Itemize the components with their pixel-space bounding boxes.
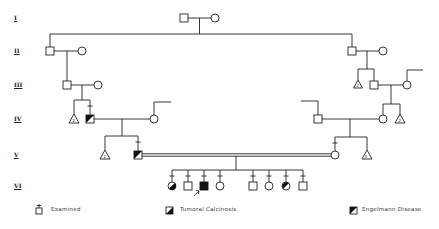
gen-i [50, 14, 352, 47]
male-symbol [249, 182, 257, 190]
female-symbol [94, 81, 102, 89]
female-symbol [78, 47, 86, 55]
female-symbol [331, 151, 339, 159]
engelmann-disease-male [134, 151, 142, 159]
male-symbol [314, 115, 322, 123]
male-symbol [180, 14, 188, 22]
gen-vi [168, 170, 307, 196]
legend-examined-label: Examined [51, 206, 81, 212]
male-symbol [184, 182, 192, 190]
svg-text:2: 2 [357, 83, 360, 88]
female-symbol [150, 115, 158, 123]
examined-legend-icon [36, 208, 42, 214]
male-symbol [46, 47, 54, 55]
legend-tumoral-calcinosis-label: Tumoral Calcinosis [180, 206, 236, 212]
female-symbol [211, 14, 219, 22]
male-symbol [348, 47, 356, 55]
male-symbol [370, 81, 378, 89]
legend-engelmann-disease-label: Engelmann Disease [362, 206, 422, 212]
gen-iii: 2 [63, 70, 423, 115]
male-symbol [299, 182, 307, 190]
female-symbol [379, 115, 387, 123]
female-symbol [379, 47, 387, 55]
female-symbol [265, 182, 273, 190]
gen-iv: 2 2 [69, 101, 405, 151]
gen-v: 2 4 [100, 150, 372, 170]
proband-affected-male [200, 182, 208, 190]
tumoral-calcinosis-male [86, 115, 94, 123]
female-symbol [216, 182, 224, 190]
gen-ii [46, 47, 387, 81]
female-symbol [403, 81, 411, 89]
pedigree-chart: 2 2 2 [0, 0, 439, 229]
male-symbol [63, 81, 71, 89]
